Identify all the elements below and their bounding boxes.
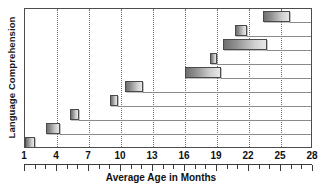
tick-label-7: 7 [85,150,91,161]
bar-10 [263,11,290,22]
gridline-7 [89,9,90,147]
x-axis-title: Average Age in Months [0,172,322,183]
row-baseline-9 [247,36,312,37]
row-baseline-5 [143,92,312,93]
y-axis-label-text: Language Comprehension [6,16,17,138]
bar-6 [185,67,221,78]
ruler-tick-20 [227,165,228,169]
gridline-10 [121,9,122,147]
x-axis-tick-labels: 14710131619222528 [0,150,322,163]
ruler-tick-27 [301,165,302,169]
ruler-tick-22 [248,165,249,171]
tick-label-4: 4 [53,150,59,161]
row-baseline-2 [60,134,312,135]
tick-label-28: 28 [306,150,317,161]
row-baseline-8 [267,50,312,51]
ruler-tick-5 [67,165,68,169]
ruler-tick-19 [216,165,217,171]
bar-1 [25,137,35,148]
ruler-tick-21 [237,165,238,169]
plot-area [24,8,312,148]
tick-label-13: 13 [146,150,157,161]
tick-label-25: 25 [274,150,285,161]
ruler-tick-14 [163,165,164,169]
ruler-tick-24 [269,165,270,169]
language-comprehension-chart: Language Comprehension 14710131619222528… [0,0,322,191]
row-baseline-10 [290,22,312,23]
ruler-tick-9 [109,165,110,169]
ruler-tick-1 [24,165,25,171]
ruler-tick-16 [184,165,185,171]
ruler-tick-4 [56,165,57,171]
ruler-tick-18 [205,165,206,169]
gridline-16 [185,9,186,147]
row-baseline-6 [221,78,312,79]
x-axis-ruler [24,164,312,172]
y-axis-title: Language Comprehension [0,0,22,155]
bar-9 [235,25,247,36]
bar-3 [70,109,80,120]
ruler-tick-10 [120,165,121,171]
row-baseline-4 [118,106,312,107]
bar-8 [223,39,267,50]
tick-label-16: 16 [178,150,189,161]
ruler-tick-25 [280,165,281,171]
tick-label-22: 22 [242,150,253,161]
ruler-tick-13 [152,165,153,171]
tick-label-1: 1 [21,150,27,161]
bar-2 [46,123,60,134]
ruler-tick-7 [88,165,89,171]
ruler-tick-15 [173,165,174,169]
bar-7 [210,53,217,64]
bar-4 [110,95,117,106]
ruler-tick-26 [291,165,292,169]
ruler-tick-3 [45,165,46,169]
ruler-tick-11 [131,165,132,169]
ruler-tick-23 [259,165,260,169]
ruler-tick-17 [195,165,196,169]
ruler-tick-8 [99,165,100,169]
row-baseline-7 [217,64,312,65]
tick-label-19: 19 [210,150,221,161]
ruler-tick-28 [312,165,313,171]
tick-label-10: 10 [114,150,125,161]
ruler-tick-6 [77,165,78,169]
bar-5 [125,81,143,92]
gridline-19 [217,9,218,147]
ruler-tick-12 [141,165,142,169]
gridline-13 [153,9,154,147]
row-baseline-3 [79,120,312,121]
ruler-tick-2 [35,165,36,169]
